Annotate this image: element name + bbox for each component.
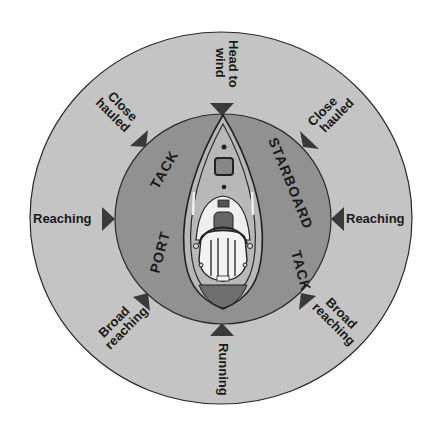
cleat-right: [243, 263, 247, 267]
forward-hatch: [215, 158, 233, 175]
svg-text:wind: wind: [213, 47, 228, 78]
rail-left: [193, 192, 194, 215]
cleat-left: [199, 263, 203, 267]
deck-fitting: [222, 145, 227, 150]
winch-right: [248, 244, 253, 249]
rail-right: [252, 192, 253, 215]
svg-text:Running: Running: [216, 343, 231, 396]
companionway: [218, 200, 229, 207]
winch-left: [194, 244, 199, 249]
label-running: Running: [216, 343, 231, 396]
label-reaching-right: Reaching: [346, 211, 405, 226]
cockpit: [199, 231, 247, 282]
mast-step: [222, 185, 227, 190]
transom-step: [217, 276, 229, 281]
points-of-sail-diagram: Head to wind Running Reaching Reaching C…: [0, 0, 433, 430]
label-reaching-left: Reaching: [33, 211, 92, 226]
